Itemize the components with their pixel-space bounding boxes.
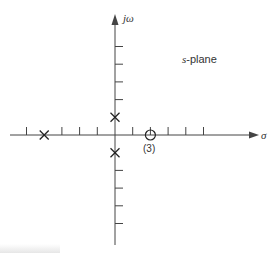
plane-label: s-plane bbox=[182, 53, 217, 65]
imaginary-axis-label: jω bbox=[123, 12, 134, 24]
figure-caption-fragment bbox=[0, 244, 60, 253]
axes bbox=[10, 14, 259, 245]
zero-multiplicity-label: (3) bbox=[143, 143, 155, 154]
imaginary-axis-arrow-icon bbox=[112, 14, 119, 25]
pole-zero-diagram bbox=[0, 0, 276, 253]
real-axis-label: σ bbox=[261, 129, 266, 141]
plane-label-text: -plane bbox=[186, 53, 217, 65]
real-axis-arrow-icon bbox=[249, 132, 259, 139]
